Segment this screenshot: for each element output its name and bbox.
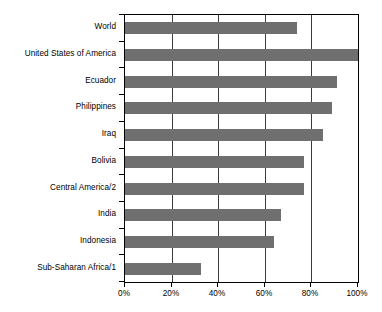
x-axis-labels: 0%20%40%60%80%100%	[0, 289, 382, 301]
y-axis-tick	[119, 67, 124, 68]
x-axis-label: 100%	[337, 289, 377, 299]
category-label: Central America/2	[50, 182, 116, 194]
x-axis-tick	[171, 282, 172, 287]
category-label: Ecuador	[85, 75, 116, 87]
y-axis-tick	[119, 14, 124, 15]
x-axis-label: 80%	[290, 289, 330, 299]
x-axis-label: 20%	[151, 289, 191, 299]
y-axis-tick	[119, 201, 124, 202]
x-axis-label: 0%	[104, 289, 144, 299]
x-axis-tick	[124, 282, 125, 287]
y-axis-tick	[119, 121, 124, 122]
bar-chart: WorldUnited States of AmericaEcuadorPhil…	[0, 0, 382, 312]
y-axis-tick	[119, 174, 124, 175]
bar	[125, 209, 281, 221]
category-label: United States of America	[25, 48, 116, 60]
category-label: Philippines	[76, 101, 116, 113]
x-axis-label: 60%	[244, 289, 284, 299]
x-axis-label: 40%	[197, 289, 237, 299]
bar	[125, 102, 332, 114]
x-axis-tick	[357, 282, 358, 287]
y-axis-tick	[119, 41, 124, 42]
bar	[125, 76, 337, 88]
bar	[125, 129, 323, 141]
bar	[125, 156, 304, 168]
x-axis-tick	[264, 282, 265, 287]
bar	[125, 49, 358, 61]
x-axis-ticks	[0, 282, 382, 288]
category-label: Indonesia	[80, 235, 116, 247]
category-axis: WorldUnited States of AmericaEcuadorPhil…	[0, 14, 120, 281]
category-label: Iraq	[102, 128, 116, 140]
y-axis-tick	[119, 254, 124, 255]
category-label: Bolivia	[92, 155, 116, 167]
bar	[125, 263, 201, 275]
x-axis-tick	[310, 282, 311, 287]
category-label: India	[98, 208, 116, 220]
y-axis-tick	[119, 94, 124, 95]
plot-area	[124, 14, 359, 283]
bar	[125, 22, 297, 34]
bar	[125, 236, 274, 248]
x-axis-tick	[217, 282, 218, 287]
bar	[125, 183, 304, 195]
plot-inner	[125, 15, 358, 282]
category-label: Sub-Saharan Africa/1	[37, 262, 116, 274]
y-axis-tick	[119, 148, 124, 149]
y-axis-tick	[119, 281, 124, 282]
y-axis-tick	[119, 228, 124, 229]
category-label: World	[95, 21, 116, 33]
